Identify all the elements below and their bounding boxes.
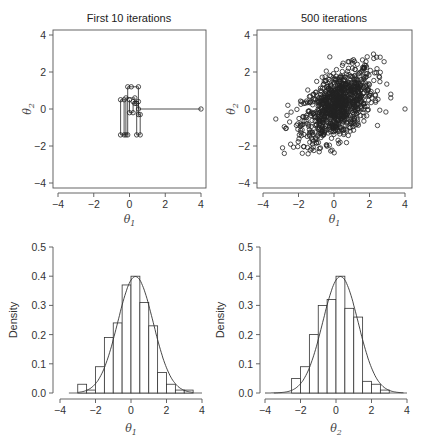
histogram-bar (131, 276, 140, 393)
histogram-bars (78, 276, 193, 393)
x-tick-label: 2 (369, 404, 375, 416)
axis-title: θ1 (124, 213, 136, 228)
axis-title: θ2 (21, 103, 36, 115)
panel-500-iterations: 500 iterations −4−2024−4−2024θ1θ2 (225, 12, 412, 228)
x-tick-label: 0 (128, 404, 134, 416)
y-tick-label: 2 (244, 66, 250, 78)
y-axis: −4−2024 (34, 29, 53, 189)
x-tick-label: 2 (162, 198, 168, 210)
y-tick-label: 0.4 (238, 270, 253, 282)
panel-first-10-iterations: First 10 iterations −4−2024−4−2024θ1θ2 (21, 12, 206, 228)
axis-title: θ2 (225, 103, 240, 115)
panel-histogram-theta2: 0.00.10.20.30.40.5Density−4−2024θ2 (214, 241, 410, 437)
axis-title: θ2 (330, 422, 342, 437)
histogram-bar (158, 373, 167, 393)
y-tick-label: 0.2 (31, 329, 46, 341)
y-tick-label: 4 (244, 29, 250, 41)
x-tick-label: −2 (295, 404, 307, 416)
histogram-bar (167, 384, 176, 393)
axis-title: θ1 (125, 422, 137, 437)
y-tick-label: 0.5 (31, 241, 46, 253)
y-tick-label: 0.1 (238, 358, 253, 370)
y-axis: 0.00.10.20.30.40.5 (31, 241, 53, 399)
x-tick-label: 4 (198, 198, 204, 210)
y-tick-label: 0.1 (31, 358, 46, 370)
x-tick-label: 4 (402, 198, 408, 210)
x-tick-label: 0 (127, 198, 133, 210)
x-tick-label: 2 (367, 198, 373, 210)
y-tick-label: −4 (34, 177, 46, 189)
x-axis: −4−2024 (259, 399, 410, 416)
histogram-bar (372, 384, 381, 393)
histogram-bar (87, 390, 96, 393)
panel-title: First 10 iterations (87, 12, 172, 24)
y-tick-label: 2 (40, 66, 46, 78)
x-tick-label: −2 (88, 198, 100, 210)
histogram-bar (140, 302, 149, 393)
histogram-bar (345, 308, 354, 393)
x-tick-label: 4 (199, 404, 205, 416)
y-axis-title: Density (7, 301, 19, 338)
y-tick-label: 0 (244, 103, 250, 115)
histogram-bar (318, 305, 327, 393)
x-axis: −4−2024 (54, 399, 205, 416)
histogram-bar (336, 276, 345, 393)
y-tick-label: 0.0 (31, 387, 46, 399)
axis-title: θ1 (329, 213, 341, 228)
histogram-bar (354, 317, 363, 393)
x-tick-label: 4 (404, 404, 410, 416)
scatter-points (274, 52, 408, 156)
panel-histogram-theta1: 0.00.10.20.30.40.5Density−4−2024θ1 (7, 241, 205, 437)
y-tick-label: 0.3 (31, 299, 46, 311)
x-tick-label: 0 (331, 198, 337, 210)
y-axis: 0.00.10.20.30.40.5 (238, 241, 260, 399)
histogram-bar (363, 381, 372, 393)
y-tick-label: 0.3 (238, 299, 253, 311)
y-tick-label: 0 (40, 103, 46, 115)
y-tick-label: 0.0 (238, 387, 253, 399)
y-tick-label: −2 (238, 140, 250, 152)
histogram-bar (380, 390, 389, 393)
x-tick-label: −4 (257, 198, 269, 210)
y-tick-label: 0.2 (238, 329, 253, 341)
histogram-bar (327, 300, 336, 393)
y-axis: −4−2024 (238, 29, 257, 189)
y-tick-label: 4 (40, 29, 46, 41)
y-axis-title: Density (214, 301, 226, 338)
x-tick-label: −4 (52, 198, 64, 210)
x-tick-label: −4 (259, 404, 271, 416)
chart-figure: First 10 iterations −4−2024−4−2024θ1θ2 5… (0, 0, 423, 447)
histogram-bar (175, 390, 184, 393)
x-tick-label: −2 (90, 404, 102, 416)
x-tick-label: 0 (333, 404, 339, 416)
trajectory-points (118, 85, 203, 137)
y-tick-label: −4 (238, 177, 250, 189)
panel-title: 500 iterations (301, 12, 368, 24)
y-tick-label: 0.4 (31, 270, 46, 282)
y-tick-label: −2 (34, 140, 46, 152)
y-tick-label: 0.5 (238, 241, 253, 253)
x-axis: −4−2024 (52, 193, 204, 210)
x-tick-label: −2 (293, 198, 305, 210)
x-axis: −4−2024 (257, 193, 408, 210)
x-tick-label: −4 (54, 404, 66, 416)
x-tick-label: 2 (164, 404, 170, 416)
